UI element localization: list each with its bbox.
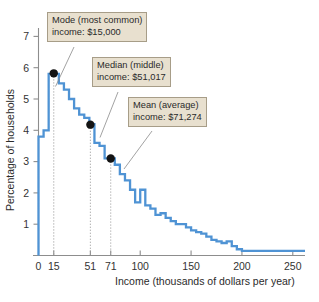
marker-mode [50,69,58,77]
marker-mean [107,154,115,162]
x-axis-title: Income (thousands of dollars per year) [115,275,295,287]
x-tick-label-150: 150 [182,260,200,272]
leader-line-mean [124,131,152,169]
callout-mode-line2: income: $15,000 [52,27,142,39]
y-tick-label-5: 5 [23,93,29,105]
x-tick-label-51: 51 [85,260,97,272]
leader-line-mode [56,47,75,87]
y-tick-label-1: 1 [23,218,29,230]
x-tick-label-15: 15 [48,260,60,272]
marker-median [86,120,94,128]
y-axis-tick-labels: 1234567 [23,30,29,230]
reference-guide-lines [54,73,111,255]
x-axis-tick-labels: 0155171100150200250 [36,260,302,272]
x-tick-label-100: 100 [131,260,149,272]
income-distribution-chart: 1234567 0155171100150200250 Percentage o… [0,0,319,302]
callout-median: Median (middle) income: $51,017 [92,57,171,87]
callout-mode: Mode (most common) income: $15,000 [47,12,147,42]
y-tick-label-4: 4 [23,124,29,136]
y-tick-label-6: 6 [23,62,29,74]
callout-mean-line2: income: $71,274 [133,112,202,124]
callout-median-line1: Median (middle) [97,60,166,72]
callout-median-line2: income: $51,017 [97,72,166,84]
x-tick-label-200: 200 [233,260,251,272]
x-tick-label-71: 71 [105,260,117,272]
y-tick-label-2: 2 [23,187,29,199]
chart-figure: 1234567 0155171100150200250 Percentage o… [0,0,319,302]
leader-line-median [100,92,118,138]
x-tick-label-0: 0 [36,260,42,272]
x-tick-label-250: 250 [284,260,302,272]
callout-mean: Mean (average) income: $71,274 [128,97,207,127]
callout-mean-line1: Mean (average) [133,100,202,112]
y-tick-label-7: 7 [23,30,29,42]
callout-mode-line1: Mode (most common) [52,15,142,27]
y-axis-title: Percentage of households [4,89,16,211]
y-tick-label-3: 3 [23,155,29,167]
